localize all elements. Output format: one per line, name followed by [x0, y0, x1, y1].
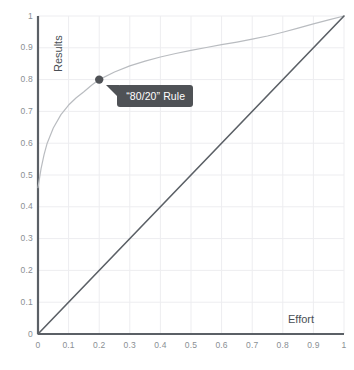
y-tick-label: 0.3: [21, 234, 33, 243]
y-tick-label: 0.8: [21, 75, 33, 84]
pareto-rule-callout: “80/20” Rule: [117, 85, 193, 108]
x-tick-label: 0: [23, 341, 53, 350]
y-tick-label: 0.4: [21, 202, 33, 211]
x-tick-label: 0.9: [298, 341, 328, 350]
y-tick-label: 0.2: [21, 266, 33, 275]
x-tick-label: 0.2: [84, 341, 114, 350]
y-axis-title: Results: [53, 35, 64, 72]
y-tick-label: 0.7: [21, 107, 33, 116]
y-tick-label: 0.9: [21, 43, 33, 52]
x-tick-label: 0.7: [237, 341, 267, 350]
x-tick-label: 0.1: [54, 341, 84, 350]
y-tick-label: 1: [28, 12, 33, 21]
y-tick-label: 0.5: [21, 171, 33, 180]
x-axis-title: Effort: [288, 314, 314, 325]
y-tick-label: 0.1: [21, 298, 33, 307]
pareto-chart: 00.10.20.30.40.50.60.70.80.91 00.10.20.3…: [0, 0, 354, 370]
y-tick-label: 0.6: [21, 139, 33, 148]
x-tick-label: 0.8: [268, 341, 298, 350]
x-tick-label: 0.4: [145, 341, 175, 350]
x-tick-label: 1: [329, 341, 354, 350]
x-tick-label: 0.3: [115, 341, 145, 350]
data-points: [95, 75, 103, 83]
x-tick-label: 0.6: [207, 341, 237, 350]
x-tick-label: 0.5: [176, 341, 206, 350]
y-tick-label: 0: [28, 330, 33, 339]
